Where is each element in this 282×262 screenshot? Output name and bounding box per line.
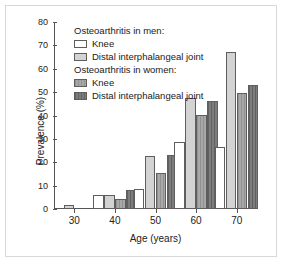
x-tick-mark (196, 209, 197, 213)
y-tick-mark (53, 209, 57, 210)
bar[interactable] (134, 189, 145, 209)
bar[interactable] (104, 195, 115, 209)
legend-swatch-icon (74, 79, 87, 87)
bar[interactable] (174, 142, 185, 209)
x-tick-mark (237, 209, 238, 213)
x-tick-mark (156, 209, 157, 213)
y-tick-label: 50 (38, 88, 48, 97)
legend-item-label: Distal interphalangeal joint (92, 50, 203, 63)
x-tick-label: 60 (191, 216, 202, 226)
y-axis-title: Prevalence (%) (35, 97, 46, 165)
y-tick-label: 0 (43, 205, 48, 214)
x-tick-mark (115, 209, 116, 213)
legend-item[interactable]: Knee (74, 37, 203, 50)
figure: Prevalence (%) Age (years) 0102030405060… (0, 0, 282, 262)
x-tick-label: 70 (231, 216, 242, 226)
legend-item[interactable]: Distal interphalangeal joint (74, 50, 203, 63)
legend-item[interactable]: Knee (74, 76, 203, 89)
y-tick-label: 60 (38, 64, 48, 73)
x-axis-title: Age (years) (54, 233, 257, 244)
x-tick-label: 50 (150, 216, 161, 226)
bar[interactable] (156, 173, 167, 209)
bar[interactable] (115, 199, 126, 209)
bar[interactable] (248, 85, 259, 209)
y-tick-label: 30 (38, 134, 48, 143)
bar[interactable] (185, 98, 196, 209)
bar[interactable] (93, 195, 104, 209)
legend-item-label: Knee (92, 76, 114, 89)
y-tick-label: 70 (38, 41, 48, 50)
chart-legend: Osteoarthritis in men:KneeDistal interph… (74, 24, 203, 102)
bar[interactable] (237, 93, 248, 209)
bar[interactable] (226, 52, 237, 209)
bar[interactable] (215, 147, 226, 209)
y-tick-label: 80 (38, 18, 48, 27)
plot-area: 01020304050607080 3040506070 Osteoarthri… (54, 22, 257, 209)
legend-swatch-icon (74, 40, 87, 48)
x-tick-label: 30 (69, 216, 80, 226)
x-tick-mark (74, 209, 75, 213)
bar[interactable] (196, 115, 207, 209)
bar[interactable] (64, 205, 75, 209)
bar[interactable] (145, 156, 156, 209)
x-tick-label: 40 (109, 216, 120, 226)
y-tick-label: 40 (38, 111, 48, 120)
legend-swatch-icon (74, 53, 87, 61)
legend-group-header: Osteoarthritis in men: (74, 24, 203, 37)
legend-item[interactable]: Distal interphalangeal joint (74, 89, 203, 102)
legend-item-label: Distal interphalangeal joint (92, 89, 203, 102)
legend-group-header: Osteoarthritis in women: (74, 63, 203, 76)
bar-group (215, 22, 259, 209)
legend-swatch-icon (74, 92, 87, 100)
y-tick-label: 10 (38, 181, 48, 190)
y-tick-label: 20 (38, 158, 48, 167)
legend-item-label: Knee (92, 37, 114, 50)
